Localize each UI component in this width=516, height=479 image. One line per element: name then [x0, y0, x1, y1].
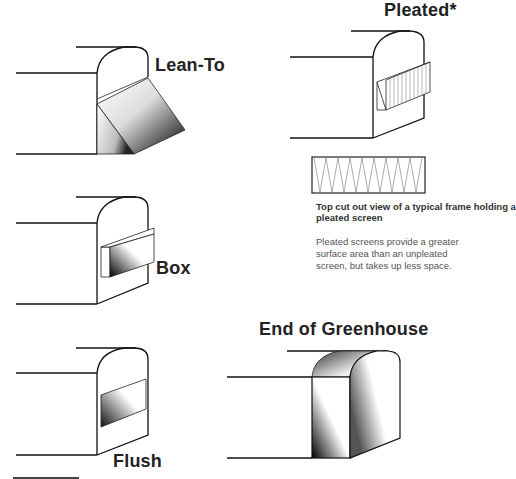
- box-label: Box: [156, 258, 191, 279]
- box-illustration: [16, 197, 154, 304]
- flush-label: Flush: [113, 451, 162, 472]
- end-of-greenhouse-label: End of Greenhouse: [259, 319, 428, 340]
- flush-illustration: [16, 348, 148, 455]
- pleated-cutout-view: [312, 157, 425, 193]
- end-of-greenhouse-illustration: [227, 351, 400, 458]
- lean-to-label: Lean-To: [155, 55, 225, 76]
- pleated-description: Pleated screens provide a greater surfac…: [316, 236, 466, 272]
- pleated-cutout-caption: Top cut out view of a typical frame hold…: [316, 201, 516, 223]
- pleated-label: Pleated*: [384, 0, 457, 21]
- pleated-illustration: [290, 31, 430, 138]
